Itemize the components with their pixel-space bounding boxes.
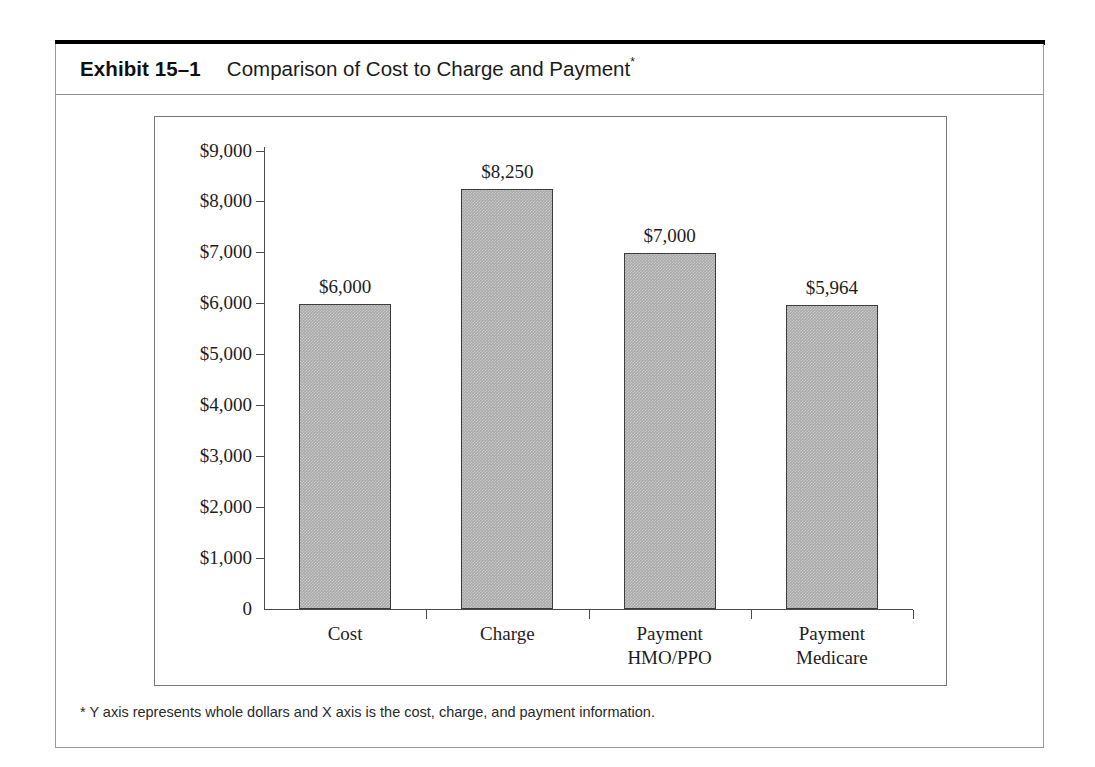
y-axis-tick-label: $7,000 (200, 242, 252, 261)
category-label-line-2: Medicare (752, 646, 912, 670)
x-axis-tick-mark (426, 610, 427, 619)
exhibit-frame: Exhibit 15–1 Comparison of Cost to Charg… (55, 44, 1044, 748)
y-axis-tick-mark (256, 558, 264, 559)
y-axis-tick-label: $9,000 (200, 141, 252, 160)
y-axis-tick-label: $3,000 (200, 446, 252, 465)
bar-charge (461, 189, 553, 609)
y-axis-line (264, 147, 265, 610)
exhibit-title-bar: Exhibit 15–1 Comparison of Cost to Charg… (56, 44, 1043, 95)
x-axis-tick-mark (589, 610, 590, 619)
y-axis-tick-label: $5,000 (200, 344, 252, 363)
y-axis-tick-label: $8,000 (200, 191, 252, 210)
x-axis-tick-mark (751, 610, 752, 619)
exhibit-title-footnote-marker: * (630, 55, 635, 69)
y-axis-tick-label: 0 (243, 599, 253, 618)
y-axis-tick-mark (256, 252, 264, 253)
y-axis-tick-mark (256, 405, 264, 406)
bar-value-label: $8,250 (437, 161, 577, 183)
y-axis-tick-label: $1,000 (200, 548, 252, 567)
exhibit-footnote: * Y axis represents whole dollars and X … (80, 704, 1010, 720)
y-axis-tick-mark (256, 303, 264, 304)
x-axis-category-label: Charge (427, 622, 587, 646)
bar-payment-hmo-ppo (624, 253, 716, 609)
exhibit-title-text: Comparison of Cost to Charge and Payment (227, 57, 630, 80)
y-axis-tick-mark (256, 609, 264, 610)
x-axis-tick-mark (913, 610, 914, 619)
category-label-line-1: Cost (328, 623, 363, 644)
y-axis-tick-mark (256, 151, 264, 152)
y-axis-tick-label: $4,000 (200, 395, 252, 414)
x-axis-category-label: PaymentMedicare (752, 622, 912, 671)
bar-value-label: $6,000 (275, 276, 415, 298)
exhibit-title: Comparison of Cost to Charge and Payment… (227, 57, 635, 81)
exhibit-number: Exhibit 15–1 (80, 57, 201, 81)
category-label-line-2: HMO/PPO (590, 646, 750, 670)
bar-value-label: $7,000 (600, 225, 740, 247)
x-axis-category-label: Cost (265, 622, 425, 646)
chart-plot-panel: $9,000$8,000$7,000$6,000$5,000$4,000$3,0… (154, 116, 947, 686)
y-axis-tick-mark (256, 354, 264, 355)
bar-value-label: $5,964 (762, 277, 902, 299)
x-axis-category-label: PaymentHMO/PPO (590, 622, 750, 671)
y-axis-tick-mark (256, 456, 264, 457)
category-label-line-1: Charge (480, 623, 535, 644)
bar-cost (299, 304, 391, 609)
category-label-line-1: Payment (799, 623, 866, 644)
category-label-line-1: Payment (636, 623, 703, 644)
y-axis-tick-label: $6,000 (200, 293, 252, 312)
bar-payment-medicare (786, 305, 878, 609)
y-axis-tick-mark (256, 507, 264, 508)
y-axis-tick-label: $2,000 (200, 497, 252, 516)
y-axis-tick-mark (256, 201, 264, 202)
